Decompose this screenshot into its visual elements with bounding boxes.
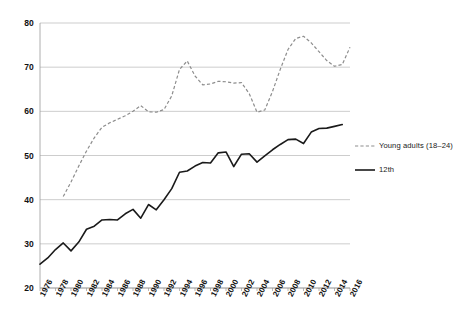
y-axis-tick-label: 50 — [12, 151, 34, 161]
y-axis-tick-label: 30 — [12, 239, 34, 249]
gridlines — [40, 23, 350, 288]
legend-item-young-adults: Young adults (18–24) — [355, 139, 454, 152]
legend-label-young-adults: Young adults (18–24) — [379, 141, 453, 150]
series-line-young-adults — [63, 36, 350, 196]
series-line-12th-grade — [40, 125, 342, 265]
dashed-line-icon — [355, 141, 375, 151]
y-axis-tick-label: 60 — [12, 106, 34, 116]
y-axis-tick-label: 70 — [12, 62, 34, 72]
chart-legend: Young adults (18–24) 12th — [355, 139, 454, 187]
solid-line-icon — [355, 165, 375, 175]
chart-container: 20304050607080 1976197819801982198419861… — [0, 0, 454, 327]
y-axis-tick-label: 80 — [12, 18, 34, 28]
y-axis-tick-label: 40 — [12, 195, 34, 205]
y-axis-tick-label: 20 — [12, 283, 34, 293]
legend-item-12th: 12th — [355, 163, 454, 176]
legend-label-12th: 12th — [379, 165, 394, 174]
